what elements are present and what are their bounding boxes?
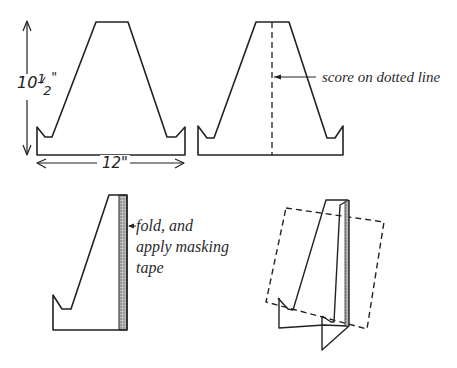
fold-annotation-line3: tape	[136, 259, 164, 277]
diagram-canvas	[0, 0, 457, 368]
figure-2-scored-pattern	[198, 22, 343, 155]
score-annotation: score on dotted line	[322, 68, 440, 86]
fold-annotation-line2: apply masking	[136, 238, 229, 256]
figure-3-folded-piece	[53, 195, 136, 330]
height-dimension-label: 10 1 2 "	[17, 74, 57, 100]
figure-4-assembled-stand	[266, 200, 384, 350]
fold-annotation-line1: fold, and	[136, 217, 193, 235]
height-whole: 10	[17, 73, 37, 92]
height-frac-den: 2	[43, 83, 51, 99]
width-dimension-label: 12"	[100, 155, 130, 171]
